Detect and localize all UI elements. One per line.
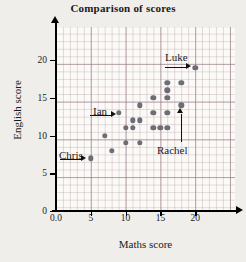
annotation-label-luke: Luke (165, 51, 188, 63)
y-axis-tick (50, 98, 56, 99)
x-tick-label: 10 (121, 213, 131, 223)
y-tick-label: 0 (42, 206, 47, 216)
y-axis-tick (50, 173, 56, 174)
y-tick-label: 5 (42, 168, 47, 178)
annotation-arrow-chris-line (60, 159, 82, 160)
x-tick-label: 5 (88, 213, 93, 223)
y-tick-label: 20 (38, 55, 48, 65)
y-axis-title: English score (11, 50, 23, 170)
annotation-arrow-ian-head-icon (111, 111, 116, 117)
annotation-arrow-ian-line (90, 115, 112, 116)
annotation-arrow-luke-line (165, 67, 187, 68)
x-axis-line (52, 210, 238, 212)
y-tick-labels: 05101520 (0, 0, 47, 262)
y-tick-label: 15 (38, 93, 48, 103)
x-tick-label: 20 (190, 213, 200, 223)
y-axis-arrow-icon (51, 16, 59, 23)
annotation-label-rachel: Rachel (157, 144, 188, 156)
y-tick-label: 10 (38, 131, 48, 141)
x-tick-label: 15 (156, 213, 166, 223)
annotation-arrow-chris-head-icon (81, 155, 86, 161)
x-tick-label: 0.0 (50, 213, 62, 223)
plot-area (56, 27, 235, 211)
scatter-chart-figure: Comparison of scores 05101520 0.05101520… (0, 0, 246, 262)
annotation-arrow-luke-head-icon (186, 63, 191, 69)
y-axis-tick (50, 60, 56, 61)
annotation-arrow-rachel-line (181, 114, 182, 142)
x-axis-arrow-icon (236, 206, 243, 214)
y-axis-line (55, 22, 57, 212)
major-gridlines (56, 27, 235, 211)
y-axis-tick (50, 136, 56, 137)
x-axis-title: Maths score (56, 238, 235, 250)
annotation-arrow-rachel-head-icon (177, 108, 183, 113)
